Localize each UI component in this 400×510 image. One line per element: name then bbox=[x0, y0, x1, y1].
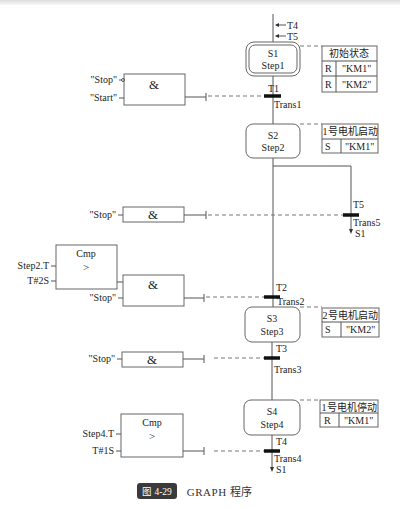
svg-text:S2: S2 bbox=[268, 130, 279, 141]
transition-t5[interactable]: T5 Trans5 S1 bbox=[343, 199, 380, 239]
cmp-block-t2: Cmp > Step2.T T#2S bbox=[18, 245, 123, 289]
svg-text:Step3: Step3 bbox=[261, 326, 284, 337]
svg-text:&: & bbox=[148, 277, 158, 292]
svg-text:>: > bbox=[149, 430, 155, 442]
transition-t3[interactable]: T3 Trans3 bbox=[264, 343, 301, 375]
transition-t4[interactable]: T4 Trans4 S1 bbox=[264, 436, 301, 475]
svg-text:"Stop": "Stop" bbox=[88, 353, 115, 364]
figure-number: 图 4-29 bbox=[137, 483, 177, 499]
s1-incoming: T4 T5 bbox=[273, 14, 298, 42]
input-stop: "Stop" bbox=[90, 74, 117, 85]
figure-title: GRAPH 程序 bbox=[187, 483, 253, 499]
action-table-s1: 初始状态 R "KM1" R "KM2" bbox=[322, 46, 377, 92]
svg-text:Trans1: Trans1 bbox=[274, 99, 301, 110]
cmp-block-t4: Cmp > Step4.T T#1S bbox=[83, 414, 204, 457]
step-id: S1 bbox=[268, 48, 279, 59]
svg-text:Cmp: Cmp bbox=[142, 417, 161, 428]
svg-text:T1: T1 bbox=[268, 83, 279, 94]
svg-text:S3: S3 bbox=[267, 313, 278, 324]
action-table-s4: 1号电机停动 R "KM1" bbox=[320, 400, 378, 427]
svg-text:1号电机停动: 1号电机停动 bbox=[322, 401, 377, 413]
svg-text:T3: T3 bbox=[276, 343, 287, 354]
svg-text:"Stop": "Stop" bbox=[89, 209, 116, 220]
figure-caption: 图 4-29 GRAPH 程序 bbox=[137, 483, 253, 499]
incoming-label-t4: T4 bbox=[287, 20, 298, 31]
svg-text:R: R bbox=[325, 79, 332, 90]
svg-text:T4: T4 bbox=[276, 436, 287, 447]
step-s3[interactable]: S3 Step3 bbox=[245, 307, 300, 342]
transition-t1[interactable]: T1 Trans1 bbox=[264, 83, 301, 110]
svg-text:Step2.T: Step2.T bbox=[18, 260, 49, 271]
svg-text:T#2S: T#2S bbox=[27, 275, 49, 286]
transition-t2[interactable]: T2 Trans2 bbox=[264, 282, 304, 307]
svg-text:Step4: Step4 bbox=[261, 419, 284, 430]
svg-text:Trans2: Trans2 bbox=[277, 296, 304, 307]
svg-text:1号电机启动: 1号电机启动 bbox=[323, 125, 378, 137]
jump-target: S1 bbox=[355, 228, 366, 239]
svg-text:"KM1": "KM1" bbox=[345, 141, 374, 152]
svg-text:"KM1": "KM1" bbox=[344, 415, 373, 426]
svg-text:T#1S: T#1S bbox=[92, 445, 114, 456]
svg-text:&: & bbox=[148, 207, 158, 222]
svg-text:S: S bbox=[325, 141, 331, 152]
svg-text:Step4.T: Step4.T bbox=[83, 428, 114, 439]
svg-text:S: S bbox=[325, 324, 331, 335]
svg-text:R: R bbox=[324, 415, 331, 426]
incoming-label-t5: T5 bbox=[287, 31, 298, 42]
and-block-t3: & "Stop" bbox=[88, 352, 204, 367]
svg-text:Cmp: Cmp bbox=[76, 248, 95, 259]
svg-text:Trans3: Trans3 bbox=[274, 364, 301, 375]
svg-text:"Stop": "Stop" bbox=[89, 292, 116, 303]
svg-text:S4: S4 bbox=[267, 406, 278, 417]
svg-text:T2: T2 bbox=[276, 282, 287, 293]
svg-text:Trans4: Trans4 bbox=[274, 453, 301, 464]
input-start: "Start" bbox=[90, 92, 117, 103]
svg-text:>: > bbox=[83, 261, 89, 273]
svg-text:初始状态: 初始状态 bbox=[329, 47, 369, 59]
step-name: Step1 bbox=[262, 60, 285, 71]
svg-text:"KM2": "KM2" bbox=[346, 324, 375, 335]
action-table-s3: 2号电机启动 S "KM2" bbox=[322, 308, 379, 337]
svg-text:R: R bbox=[325, 63, 332, 74]
and-block-t1: & "Stop" "Start" bbox=[90, 74, 206, 105]
and-block-t5: & "Stop" bbox=[89, 207, 206, 222]
step-s4[interactable]: S4 Step4 bbox=[244, 400, 300, 435]
svg-text:&: & bbox=[147, 352, 157, 367]
action-table-s2: 1号电机启动 S "KM1" bbox=[322, 124, 378, 153]
svg-text:&: & bbox=[149, 77, 159, 92]
svg-text:T5: T5 bbox=[353, 199, 364, 210]
graph-sequence-diagram: T4 T5 S1 Step1 初始状态 R "KM1" R "KM2" T1 T… bbox=[0, 0, 400, 510]
svg-text:Trans5: Trans5 bbox=[353, 217, 380, 228]
svg-text:"KM2": "KM2" bbox=[342, 79, 371, 90]
svg-text:2号电机启动: 2号电机启动 bbox=[323, 309, 378, 321]
svg-text:Step2: Step2 bbox=[262, 142, 285, 153]
step-s2[interactable]: S2 Step2 bbox=[246, 124, 300, 158]
jump-target: S1 bbox=[276, 464, 287, 475]
svg-text:"KM1": "KM1" bbox=[342, 63, 371, 74]
step-s1[interactable]: S1 Step1 bbox=[246, 42, 300, 76]
